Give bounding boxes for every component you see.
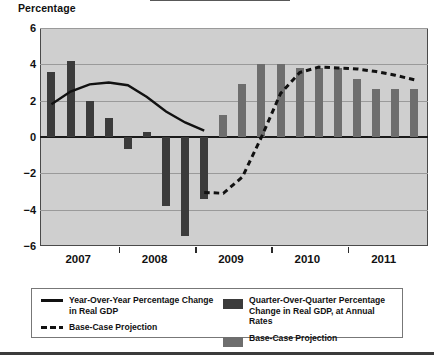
plot-content (40, 28, 428, 246)
legend-column-right: Quarter-Over-Quarter Percentage Change i… (223, 295, 398, 353)
solid-line-icon (41, 299, 63, 302)
figure-gdp-chart: Percentage 6420−2−4−6 200720082009201020… (0, 0, 434, 360)
legend-column-left: Year-Over-Year Percentage Change in Real… (41, 295, 217, 339)
x-tick-mark (348, 247, 350, 253)
legend-item-qoq: Quarter-Over-Quarter Percentage Change i… (223, 295, 398, 327)
legend-label-qoq: Quarter-Over-Quarter Percentage Change i… (249, 295, 398, 327)
y-tick-label: 2 (2, 95, 36, 107)
legend-item-yoy: Year-Over-Year Percentage Change in Real… (41, 295, 217, 316)
y-tick-label: 0 (2, 131, 36, 143)
x-tick-label: 2009 (218, 253, 244, 265)
plot-area (40, 28, 428, 246)
x-tick-mark (119, 247, 121, 253)
chart-legend: Year-Over-Year Percentage Change in Real… (31, 288, 403, 338)
bottom-rule (0, 352, 434, 355)
legend-label-projection-line: Base-Case Projection (69, 322, 157, 333)
x-tick-label: 2011 (371, 253, 396, 265)
dark-swatch-icon (223, 299, 243, 309)
legend-label-projection-bar: Base-Case Projection (249, 333, 337, 344)
y-tick-label: 4 (2, 58, 36, 70)
x-tick-mark (195, 247, 197, 253)
line-series-svg (40, 28, 428, 246)
y-tick-label: −6 (2, 240, 36, 252)
dashed-line-icon (41, 326, 63, 329)
x-tick-label: 2008 (142, 253, 168, 265)
legend-item-projection-bar: Base-Case Projection (223, 333, 398, 347)
legend-label-yoy: Year-Over-Year Percentage Change in Real… (69, 295, 217, 316)
projection-line (204, 67, 414, 193)
yoy-line (51, 83, 204, 131)
x-tick-mark (271, 247, 273, 253)
mid-swatch-icon (223, 337, 243, 347)
title-crop-artifact (150, 0, 290, 1)
y-tick-label: 6 (2, 22, 36, 34)
y-tick-label: −2 (2, 167, 36, 179)
x-tick-label: 2010 (295, 253, 321, 265)
x-tick-label: 2007 (65, 253, 91, 265)
legend-item-projection-line: Base-Case Projection (41, 322, 217, 333)
y-tick-label: −4 (2, 204, 36, 216)
